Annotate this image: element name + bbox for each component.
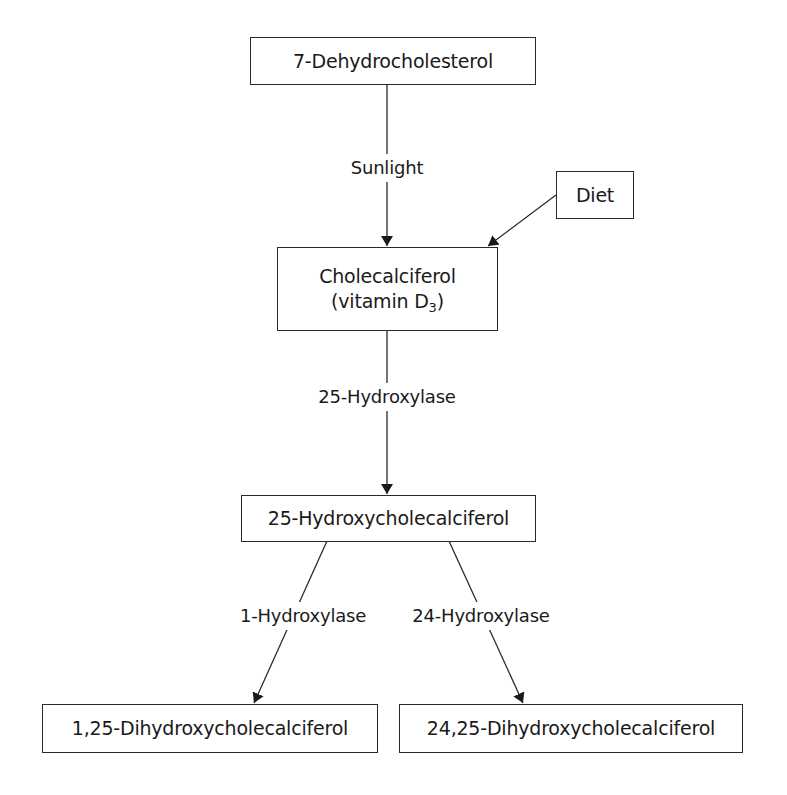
arrow-diet — [488, 195, 556, 246]
node-label-line2: (vitamin D3) — [331, 289, 444, 314]
node-label: Diet — [576, 183, 614, 208]
node-7-dehydrocholesterol: 7-Dehydrocholesterol — [250, 37, 536, 85]
node-label: 1,25-Dihydroxycholecalciferol — [72, 716, 348, 741]
node-24-25-dihydroxycholecalciferol: 24,25-Dihydroxycholecalciferol — [399, 704, 743, 753]
node-diet: Diet — [556, 171, 634, 219]
node-1-25-dihydroxycholecalciferol: 1,25-Dihydroxycholecalciferol — [42, 704, 378, 753]
edge-label-25-hydroxylase: 25-Hydroxylase — [314, 383, 459, 411]
edge-label-1-hydroxylase: 1-Hydroxylase — [236, 602, 370, 630]
vitamin-suffix: ) — [437, 290, 444, 312]
vitamin-subscript: 3 — [429, 300, 437, 315]
edge-label-sunlight: Sunlight — [347, 154, 428, 182]
node-label-line1: Cholecalciferol — [319, 264, 456, 289]
pathway-diagram: Sunlight 25-Hydroxylase 1-Hydroxylase 24… — [0, 0, 787, 795]
vitamin-prefix: (vitamin D — [331, 290, 429, 312]
node-cholecalciferol: Cholecalciferol (vitamin D3) — [277, 247, 498, 331]
edge-label-24-hydroxylase: 24-Hydroxylase — [408, 602, 553, 630]
node-25-hydroxycholecalciferol: 25-Hydroxycholecalciferol — [241, 495, 536, 542]
node-label: 7-Dehydrocholesterol — [293, 49, 493, 74]
node-label: 25-Hydroxycholecalciferol — [268, 506, 509, 531]
node-label: 24,25-Dihydroxycholecalciferol — [427, 716, 715, 741]
